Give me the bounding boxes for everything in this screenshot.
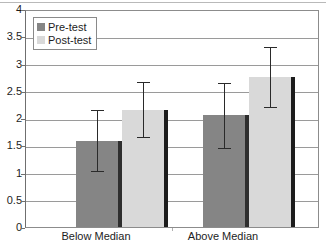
- error-bar-cap-bottom: [137, 137, 150, 138]
- legend-swatch-icon: [37, 23, 45, 31]
- scan-top-rule: [0, 2, 326, 3]
- error-bar-cap-bottom: [218, 148, 231, 149]
- legend-item-pre-test[interactable]: Pre-test: [37, 20, 91, 33]
- x-tick-label-above-median: Above Median: [173, 230, 273, 242]
- y-tick-label: 0.5: [2, 195, 22, 206]
- error-bar-pre-test-below-median: [97, 110, 98, 173]
- legend: Pre-test Post-test: [33, 17, 97, 50]
- y-axis: 4 3.5 3 2.5 2 1.5 1 0.5 0: [0, 10, 22, 228]
- y-tick-label: 3.5: [2, 31, 22, 42]
- legend-label: Post-test: [48, 34, 91, 46]
- legend-swatch-icon: [37, 36, 45, 44]
- error-bar-pre-test-above-median: [224, 83, 225, 149]
- error-bar-cap-top: [264, 47, 277, 48]
- y-tick-label: 1.5: [2, 140, 22, 151]
- bar-edge-shadow: [164, 110, 168, 227]
- y-tick-label: 2.5: [2, 86, 22, 97]
- y-tick-label: 3: [2, 59, 22, 70]
- error-bar-post-test-below-median: [143, 82, 144, 138]
- bar-edge-shadow: [291, 77, 295, 227]
- y-tick-label: 2: [2, 113, 22, 124]
- gridline: [26, 65, 318, 66]
- y-tick-mark: [21, 228, 25, 229]
- error-bar-cap-top: [218, 83, 231, 84]
- y-tick-label: 1: [2, 168, 22, 179]
- legend-item-post-test[interactable]: Post-test: [37, 33, 91, 46]
- error-bar-cap-top: [137, 82, 150, 83]
- y-tick-label: 0: [2, 222, 22, 233]
- bar-chart: 4 3.5 3 2.5 2 1.5 1 0.5 0: [0, 0, 326, 248]
- x-tick-label-below-median: Below Median: [46, 230, 146, 242]
- error-bar-cap-bottom: [264, 107, 277, 108]
- y-tick-label: 4: [2, 4, 22, 15]
- error-bar-post-test-above-median: [270, 47, 271, 108]
- error-bar-cap-top: [91, 110, 104, 111]
- error-bar-cap-bottom: [91, 171, 104, 172]
- legend-label: Pre-test: [48, 21, 87, 33]
